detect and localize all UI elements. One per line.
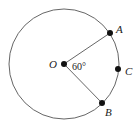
label-c: C <box>125 65 133 77</box>
label-o: O <box>49 58 57 70</box>
label-b: B <box>105 106 112 118</box>
angle-label: 60° <box>72 61 86 72</box>
point-c <box>115 66 121 72</box>
circle-diagram: O 60° A C B <box>0 0 140 125</box>
point-o <box>61 61 67 67</box>
point-a <box>107 30 113 36</box>
radius-oa <box>64 33 110 64</box>
label-a: A <box>115 23 123 35</box>
